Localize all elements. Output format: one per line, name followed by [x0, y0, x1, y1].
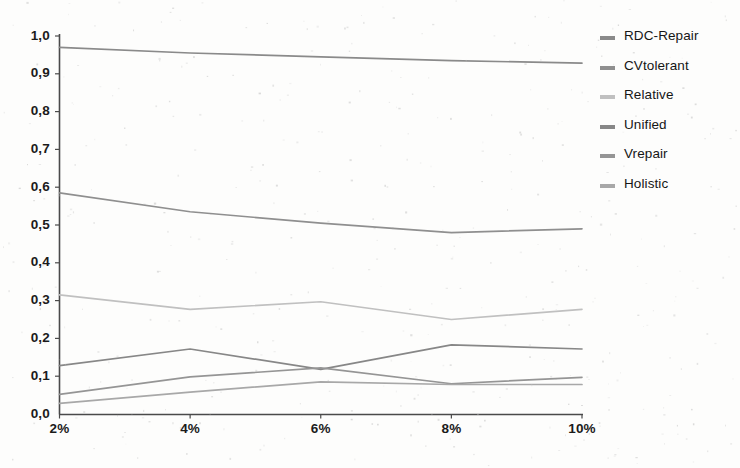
y-axis-tick-label: 0,8 [4, 104, 50, 118]
series-line-relative [60, 295, 583, 320]
legend-swatch-icon [600, 95, 615, 99]
legend-swatch-icon [600, 66, 615, 70]
legend-swatch-icon [600, 184, 615, 188]
y-axis-tick-label: 0,2 [4, 331, 50, 345]
legend-item: Holistic [598, 176, 738, 206]
axis-lines [59, 34, 583, 415]
axis-tickmarks [55, 36, 582, 419]
series-lines [60, 47, 583, 403]
legend-item: RDC-Repair [598, 28, 738, 58]
y-axis-tick-label: 0,4 [4, 255, 50, 269]
x-axis-tick-label: 4% [160, 422, 220, 436]
legend-swatch-icon [600, 36, 615, 40]
legend-item-label: Holistic [624, 176, 668, 191]
y-axis-tick-label: 0,1 [4, 369, 50, 383]
y-axis-tick-label: 0,3 [4, 293, 50, 307]
legend-swatch-icon [600, 125, 615, 129]
y-axis-tick-label: 0,5 [4, 218, 50, 232]
x-axis-tick-label: 6% [291, 422, 351, 436]
series-line-cvtolerant [60, 193, 583, 233]
y-axis-tick-label: 0,9 [4, 66, 50, 80]
series-line-rdc-repair [60, 47, 583, 63]
legend-item: Vrepair [598, 146, 738, 176]
legend-item-label: CVtolerant [624, 58, 689, 73]
legend-item-label: RDC-Repair [624, 28, 699, 43]
y-axis-tick-label: 1,0 [4, 29, 50, 43]
x-axis-tick-label: 2% [30, 422, 90, 436]
series-line-unified [60, 345, 583, 370]
legend-item: Unified [598, 117, 738, 147]
y-axis-tick-label: 0,6 [4, 180, 50, 194]
legend-item-label: Vrepair [624, 146, 668, 161]
x-axis-tick-label: 10% [552, 422, 612, 436]
legend-item-label: Relative [624, 87, 674, 102]
series-line-holistic [60, 382, 583, 404]
y-axis-tick-label: 0,0 [4, 407, 50, 421]
legend-item: CVtolerant [598, 58, 738, 88]
legend-item-label: Unified [624, 117, 667, 132]
chart-legend: RDC-RepairCVtolerantRelativeUnifiedVrepa… [598, 28, 738, 206]
line-chart: 0,00,10,20,30,40,50,60,70,80,91,0 2%4%6%… [0, 0, 740, 468]
x-axis-tick-label: 8% [421, 422, 481, 436]
legend-swatch-icon [600, 154, 615, 158]
legend-item: Relative [598, 87, 738, 117]
y-axis-tick-label: 0,7 [4, 142, 50, 156]
